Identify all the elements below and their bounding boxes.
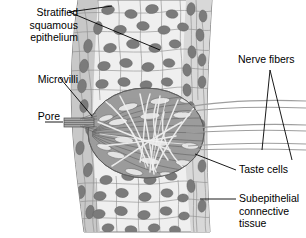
label-nerve-fibers: Nerve fibers <box>238 53 306 66</box>
leader-nerve-b <box>270 70 292 160</box>
taste-bud <box>88 88 204 179</box>
label-microvilli: Microvilli <box>2 73 78 86</box>
figure-canvas: Stratified squamous epithelium Microvill… <box>0 0 306 238</box>
leader-nerve-a <box>262 70 270 150</box>
label-pore: Pore <box>2 110 60 123</box>
label-taste-cells: Taste cells <box>239 163 305 176</box>
label-stratified-squamous-epithelium: Stratified squamous epithelium <box>2 6 78 44</box>
label-subepithelial-connective-tissue: Subepithelial connective tissue <box>239 192 306 230</box>
